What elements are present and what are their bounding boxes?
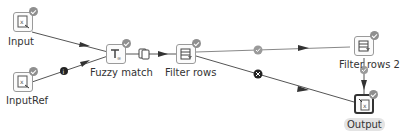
- edge-filter-filter2[interactable]: [196, 47, 350, 52]
- svg-text:x: x: [20, 18, 24, 25]
- node-input[interactable]: x: [13, 12, 33, 32]
- node-label-selected: Output: [344, 118, 385, 131]
- input-file-icon: x: [16, 15, 30, 29]
- node-label: Filter rows: [165, 67, 216, 78]
- node-label: InputRef: [6, 95, 48, 106]
- node-filter-rows[interactable]: [176, 44, 196, 64]
- node-label: Filter rows 2: [339, 59, 400, 70]
- output-file-icon: x: [358, 98, 372, 112]
- arrow-icon: [79, 42, 90, 47]
- edge-input-fuzzy[interactable]: [32, 32, 108, 52]
- true-check-icon: [254, 46, 263, 55]
- node-label: Input: [8, 36, 34, 47]
- svg-text:x: x: [363, 102, 367, 109]
- input-file-icon: x: [16, 75, 30, 89]
- node-filter-rows-2[interactable]: [354, 36, 374, 56]
- filter-icon: [179, 47, 193, 61]
- node-fuzzy-match[interactable]: ∞: [106, 44, 126, 64]
- arrow-icon: [80, 60, 90, 67]
- status-ok-icon: [192, 39, 201, 48]
- node-output[interactable]: x: [354, 94, 374, 114]
- status-ok-icon: [29, 67, 38, 76]
- status-ok-icon: [122, 39, 131, 48]
- fuzzy-match-icon: ∞: [109, 47, 123, 61]
- arrow-icon: [361, 80, 367, 90]
- status-ok-icon: [369, 90, 378, 99]
- node-label: Fuzzy match: [90, 67, 153, 78]
- arrow-icon: [298, 45, 309, 51]
- arrow-icon: [158, 51, 168, 57]
- svg-text:x: x: [20, 78, 24, 85]
- status-ok-icon: [370, 31, 379, 40]
- node-inputref[interactable]: x: [13, 72, 33, 92]
- edge-filter-output[interactable]: [196, 56, 354, 102]
- svg-text:∞: ∞: [117, 55, 121, 61]
- filter-icon: [357, 39, 371, 53]
- status-ok-icon: [29, 7, 38, 16]
